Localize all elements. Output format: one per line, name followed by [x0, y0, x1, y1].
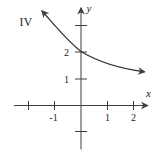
x-ticklabel-2: 2 [131, 112, 136, 123]
y-ticklabel-2: 2 [64, 47, 69, 58]
x-ticklabel-1: 1 [105, 112, 110, 123]
quadrant-label: IV [20, 16, 33, 28]
y-axis-label: y [86, 2, 92, 14]
function-curve [42, 11, 145, 72]
x-axis-label: x [145, 87, 151, 99]
y-ticklabel-1: 1 [64, 74, 69, 85]
graph-figure: -1 1 2 2 1 x y IV [0, 0, 161, 155]
coordinate-plane-svg: -1 1 2 2 1 x y IV [0, 0, 161, 155]
x-ticklabel-minus1: -1 [49, 112, 57, 123]
